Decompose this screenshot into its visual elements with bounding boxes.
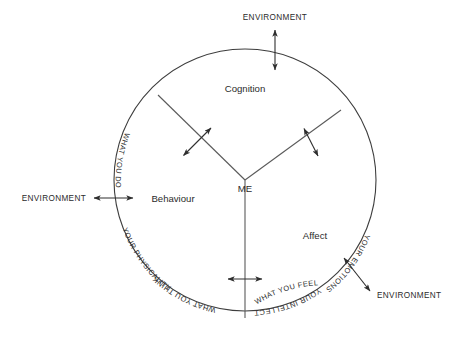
me-model-diagram: YOUR INTELLECT WHAT YOU THINK YOUR EMOTI…	[0, 0, 455, 340]
arrow-cognition-behaviour	[184, 128, 212, 156]
hub-label-me: ME	[238, 183, 252, 194]
sector-label-affect: Affect	[303, 230, 328, 241]
arrow-cognition-affect	[304, 129, 318, 157]
sector-label-cognition: Cognition	[225, 83, 266, 94]
arc-label-what-you-do: WHAT YOU DO	[114, 131, 132, 188]
arc-label-your-physicality: YOUR PHYSICALITY	[121, 226, 173, 293]
arc-label-what-you-do-text: WHAT YOU DO	[114, 131, 132, 188]
spoke-cognition-affect	[245, 110, 341, 180]
environment-label-left: ENVIRONMENT	[22, 194, 86, 203]
environment-label-top: ENVIRONMENT	[243, 13, 307, 22]
sector-label-behaviour: Behaviour	[151, 193, 195, 204]
environment-label-bottom-right: ENVIRONMENT	[377, 291, 441, 300]
arc-label-your-physicality-text: YOUR PHYSICALITY	[121, 226, 173, 293]
